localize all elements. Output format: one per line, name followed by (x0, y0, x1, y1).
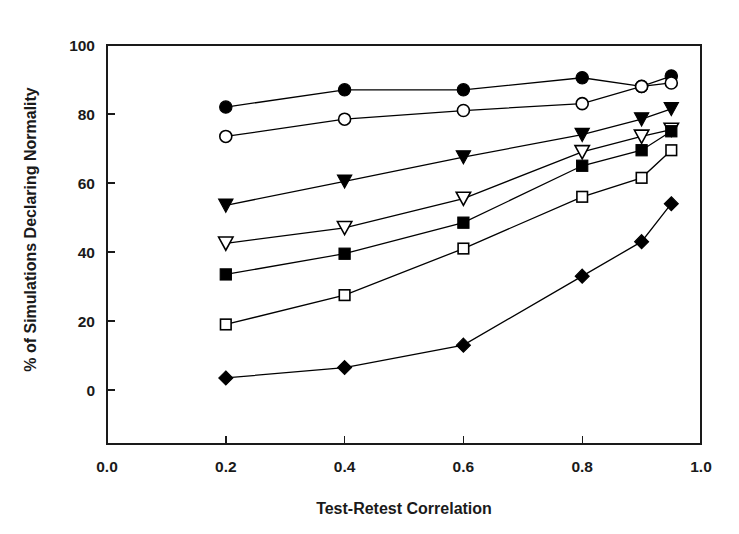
series-filled-triangle-down (219, 102, 679, 212)
y-tick-label: 100 (69, 37, 95, 54)
data-point-marker (635, 235, 649, 249)
x-tick-label: 0.8 (571, 458, 593, 475)
series-polyline (226, 76, 672, 107)
data-point-marker (219, 237, 233, 250)
data-point-marker (636, 173, 647, 184)
data-point-marker (575, 146, 589, 159)
y-tick-label: 80 (78, 106, 95, 123)
series-polyline (226, 204, 672, 378)
plot-area-border (107, 45, 701, 444)
data-point-marker (221, 319, 232, 330)
data-point-marker (575, 269, 589, 283)
data-point-marker (456, 151, 470, 164)
y-tick-label: 40 (78, 244, 95, 261)
data-point-marker (458, 217, 469, 228)
data-point-marker (636, 80, 648, 92)
data-point-marker (339, 290, 350, 301)
data-point-marker (456, 192, 470, 205)
data-point-marker (220, 269, 231, 280)
x-tick-label: 0.4 (334, 458, 356, 475)
data-point-marker (664, 197, 678, 211)
x-axis: 0.00.20.40.60.81.0 (96, 436, 712, 475)
series-open-square (221, 145, 677, 330)
data-point-marker (457, 84, 469, 96)
y-tick-label: 0 (86, 382, 95, 399)
series-open-circle (220, 77, 678, 142)
data-point-marker (577, 192, 588, 203)
data-point-marker (576, 98, 588, 110)
data-point-marker (575, 128, 589, 141)
data-point-marker (457, 105, 469, 117)
data-point-marker (666, 145, 677, 156)
data-point-marker (220, 101, 232, 113)
data-point-marker (339, 113, 351, 125)
x-tick-label: 0.0 (96, 458, 118, 475)
chart-figure: 020406080100 0.00.20.40.60.81.0 Test-Ret… (0, 0, 739, 534)
series-open-triangle-down (219, 123, 679, 250)
data-point-marker (665, 77, 677, 89)
y-tick-label: 20 (78, 313, 95, 330)
y-axis-title: % of Simulations Declaring Normality (22, 87, 39, 372)
x-tick-label: 1.0 (690, 458, 712, 475)
x-tick-label: 0.2 (215, 458, 237, 475)
y-tick-label: 60 (78, 175, 95, 192)
line-chart-canvas: 020406080100 0.00.20.40.60.81.0 Test-Ret… (0, 0, 739, 534)
data-point-marker (220, 130, 232, 142)
plot-frame (107, 45, 701, 444)
data-point-marker (338, 84, 350, 96)
data-point-marker (664, 102, 678, 115)
series-filled-circle (220, 70, 678, 113)
series-polyline (226, 109, 672, 206)
data-point-marker (577, 160, 588, 171)
data-point-marker (456, 338, 470, 352)
data-point-marker (338, 361, 352, 375)
data-series-layer (219, 70, 679, 385)
series-filled-diamond (219, 197, 679, 385)
series-polyline (226, 150, 672, 324)
data-point-marker (219, 199, 233, 212)
data-point-marker (339, 248, 350, 259)
x-axis-title: Test-Retest Correlation (316, 500, 492, 517)
x-tick-label: 0.6 (453, 458, 475, 475)
data-point-marker (219, 371, 233, 385)
data-point-marker (634, 113, 648, 126)
y-axis: 020406080100 (69, 37, 115, 399)
data-point-marker (458, 243, 469, 254)
data-point-marker (666, 126, 677, 137)
data-point-marker (337, 175, 351, 188)
data-point-marker (634, 130, 648, 143)
data-point-marker (576, 72, 588, 84)
data-point-marker (636, 145, 647, 156)
